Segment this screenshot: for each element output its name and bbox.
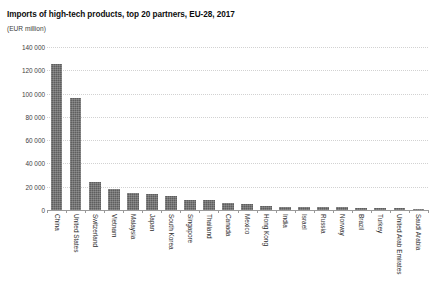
x-axis-tick — [161, 210, 162, 213]
x-axis-tick — [199, 210, 200, 213]
x-axis-tick-label: Japan — [149, 214, 155, 231]
x-axis-label-slot: United States — [66, 214, 85, 299]
x-axis-label-slot: Thailand — [199, 214, 218, 299]
y-axis-tick-label: 120 000 — [1, 67, 45, 74]
x-axis-tick-label: Singapore — [187, 214, 193, 243]
x-axis-label-slot: Switzerland — [85, 214, 104, 299]
x-axis-label-slot: Russia — [314, 214, 333, 299]
x-axis-tick — [314, 210, 315, 213]
x-axis-label-slot: Brazil — [352, 214, 371, 299]
x-axis-label-slot: Japan — [142, 214, 161, 299]
y-axis: 140 000120 000100 00080 00060 00040 0002… — [0, 0, 45, 299]
x-axis-tick-label: Switzerland — [91, 214, 97, 247]
x-axis-tick-label: Brazil — [358, 214, 364, 230]
x-axis-tick — [295, 210, 296, 213]
y-axis-tick-label: 140 000 — [1, 44, 45, 51]
bar — [89, 182, 101, 210]
x-axis-tick-label: Mexico — [244, 214, 250, 234]
x-axis-label-slot: Hong Kong — [257, 214, 276, 299]
x-axis-tick — [66, 210, 67, 213]
x-axis-tick — [238, 210, 239, 213]
x-axis-tick — [409, 210, 410, 213]
y-axis-tick-label: 20 000 — [1, 183, 45, 190]
x-axis-tick-label: United Arab Emirates — [396, 214, 402, 274]
x-axis-tick — [352, 210, 353, 213]
x-axis-tick — [276, 210, 277, 213]
bar — [222, 203, 234, 210]
chart-figure: Imports of high-tech products, top 20 pa… — [0, 0, 435, 299]
x-axis-label-slot: United Arab Emirates — [390, 214, 409, 299]
x-axis-label-slot: India — [276, 214, 295, 299]
x-axis-tick-label: Turkey — [377, 214, 383, 233]
x-axis-tick — [390, 210, 391, 213]
x-axis-labels: ChinaUnited StatesSwitzerlandVietnamMala… — [47, 214, 428, 299]
bar — [146, 194, 158, 210]
x-axis-tick — [333, 210, 334, 213]
x-axis-tick-label: Hong Kong — [263, 214, 269, 246]
bar — [70, 98, 82, 210]
bar — [184, 200, 196, 210]
bar — [127, 193, 139, 210]
bar — [203, 200, 215, 210]
x-axis-tick-label: Thailand — [206, 214, 212, 239]
x-axis-label-slot: Turkey — [371, 214, 390, 299]
x-axis-tick — [371, 210, 372, 213]
bar — [108, 189, 120, 210]
x-axis-label-slot: Norway — [333, 214, 352, 299]
x-axis-tick — [428, 210, 429, 213]
y-axis-tick-label: 80 000 — [1, 113, 45, 120]
x-axis-label-slot: China — [47, 214, 66, 299]
y-axis-tick-label: 60 000 — [1, 137, 45, 144]
x-axis-tick-label: Malaysia — [130, 214, 136, 239]
x-axis-tick — [47, 210, 48, 213]
x-axis-label-slot: Canada — [218, 214, 237, 299]
x-axis-tick-label: China — [53, 214, 59, 231]
x-axis-label-slot: Singapore — [180, 214, 199, 299]
x-axis-tick-label: United States — [72, 214, 78, 252]
x-axis-label-slot: Vietnam — [104, 214, 123, 299]
x-axis-tick — [85, 210, 86, 213]
x-axis-tick-label: Saudi Arabia — [415, 214, 421, 250]
x-axis-label-slot: South Korea — [161, 214, 180, 299]
x-axis-label-slot: Malaysia — [123, 214, 142, 299]
y-axis-tick-label: 40 000 — [1, 160, 45, 167]
x-axis-tick-label: Norway — [339, 214, 345, 236]
x-axis-tick — [123, 210, 124, 213]
x-axis-tick — [218, 210, 219, 213]
x-axis-tick-label: Vietnam — [110, 214, 116, 237]
x-axis-tick — [142, 210, 143, 213]
x-axis-tick-label: India — [282, 214, 288, 228]
x-axis-label-slot: Mexico — [238, 214, 257, 299]
x-axis-tick-label: Russia — [320, 214, 326, 234]
y-axis-tick-label: 100 000 — [1, 90, 45, 97]
bars-layer — [47, 47, 428, 210]
x-axis-tick-label: South Korea — [168, 214, 174, 250]
x-axis-label-slot: Israel — [295, 214, 314, 299]
x-axis-tick — [104, 210, 105, 213]
x-axis-label-slot: Saudi Arabia — [409, 214, 428, 299]
x-axis-tick-label: Canada — [225, 214, 231, 236]
x-axis-tick-label: Israel — [301, 214, 307, 230]
bar — [51, 64, 63, 210]
x-axis-tick — [180, 210, 181, 213]
y-axis-tick-label: 0 — [1, 207, 45, 214]
x-axis-tick — [257, 210, 258, 213]
bar — [165, 196, 177, 210]
